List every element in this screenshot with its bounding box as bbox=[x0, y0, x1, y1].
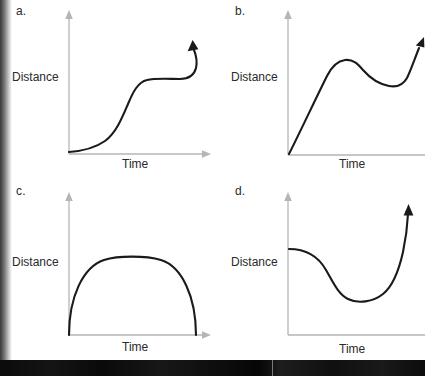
panel-b: b. Distance Time bbox=[213, 0, 425, 188]
panel-b-plot bbox=[213, 0, 425, 188]
panel-c-curve bbox=[69, 257, 196, 335]
panel-b-y-axis-arrowhead bbox=[284, 10, 292, 19]
panel-a-x-axis-arrowhead bbox=[202, 150, 211, 158]
panel-d-curve bbox=[289, 214, 408, 302]
scan-bottom-shadow bbox=[0, 360, 425, 376]
panel-d-plot bbox=[213, 180, 425, 360]
panel-c-y-axis-arrowhead bbox=[65, 192, 73, 201]
panel-c-plot bbox=[0, 180, 213, 360]
panel-b-curve-arrowhead bbox=[416, 37, 425, 47]
panel-d-curve-arrowhead bbox=[404, 204, 414, 215]
panel-d: d. Distance Time bbox=[213, 180, 425, 360]
panel-a-y-axis-arrowhead bbox=[65, 10, 73, 19]
panel-b-curve bbox=[289, 48, 419, 154]
panel-c-x-axis-arrowhead bbox=[202, 331, 211, 339]
panel-a-curve-arrowhead bbox=[188, 40, 199, 51]
panel-a-plot bbox=[0, 0, 213, 188]
panel-d-y-axis-arrowhead bbox=[284, 192, 292, 201]
figure-page: a. Distance Time b. Distance Time bbox=[0, 0, 425, 376]
panel-a-curve bbox=[69, 50, 197, 152]
panel-c: c. Distance Time bbox=[0, 180, 213, 360]
panel-a: a. Distance Time bbox=[0, 0, 213, 188]
